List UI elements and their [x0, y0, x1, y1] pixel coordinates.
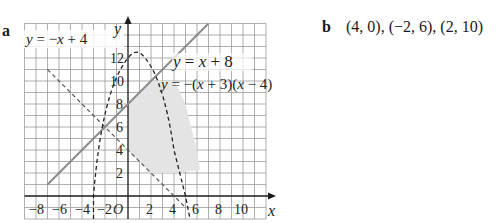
svg-text:2: 2	[116, 166, 123, 181]
y-axis-label: y	[112, 20, 122, 38]
svg-text:−2: −2	[97, 202, 112, 217]
origin-label: O	[113, 202, 123, 217]
x-tick-labels: −8 −6 −4 −2 2 4 6 8 10	[29, 202, 248, 217]
y-axis-arrow-icon	[125, 16, 132, 24]
graph: y = −x + 4 y = x + 8 y = −(x + 3)(x − 4)…	[0, 0, 500, 223]
svg-text:8: 8	[116, 97, 123, 112]
x-axis-arrow-icon	[268, 193, 276, 200]
svg-text:−6: −6	[52, 202, 67, 217]
svg-text:6: 6	[192, 202, 199, 217]
label-line-2: y = x + 8	[171, 52, 233, 71]
label-parabola: y = −(x + 3)(x − 4)	[159, 76, 272, 93]
svg-text:10: 10	[234, 202, 248, 217]
svg-text:10: 10	[110, 74, 124, 89]
label-line-1: y = −x + 4	[24, 31, 88, 47]
svg-text:4: 4	[169, 202, 176, 217]
svg-text:4: 4	[116, 143, 123, 158]
svg-text:−8: −8	[29, 202, 44, 217]
svg-text:12: 12	[110, 51, 124, 66]
svg-text:6: 6	[116, 120, 123, 135]
svg-text:8: 8	[215, 202, 222, 217]
x-axis-label: x	[267, 202, 275, 219]
svg-text:2: 2	[146, 202, 153, 217]
svg-text:−4: −4	[75, 202, 90, 217]
